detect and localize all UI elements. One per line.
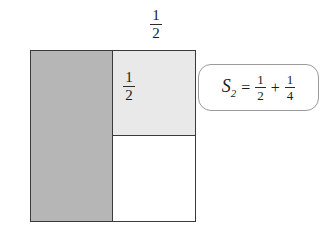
partial-sum-figure: 1 2 1 2 S2 = 1 2 + 1 4 — [0, 0, 336, 238]
fraction-term-one-half: 1 2 — [255, 73, 266, 102]
fraction-denominator: 4 — [285, 88, 296, 102]
fraction-denominator: 2 — [150, 25, 162, 41]
equation-callout: S2 = 1 2 + 1 4 — [198, 64, 319, 111]
fraction-term-one-quarter: 1 4 — [285, 73, 296, 102]
plus-sign: + — [271, 79, 280, 97]
fraction-denominator: 2 — [255, 88, 266, 102]
fraction-denominator: 2 — [123, 87, 135, 103]
fraction-numerator: 1 — [285, 73, 296, 88]
fraction-numerator: 1 — [150, 8, 162, 25]
fraction-numerator: 1 — [123, 70, 135, 87]
top-edge-fraction-label: 1 2 — [143, 8, 169, 41]
equals-sign: = — [241, 79, 250, 97]
fraction-one-half-inner: 1 2 — [123, 70, 135, 103]
series-symbol-letter: S — [222, 76, 231, 96]
series-symbol-subscript: 2 — [231, 87, 237, 99]
series-symbol: S2 — [222, 76, 237, 99]
unit-square — [30, 50, 196, 222]
fraction-numerator: 1 — [255, 73, 266, 88]
inner-fraction-label: 1 2 — [118, 70, 140, 103]
shaded-region-one-half — [31, 51, 113, 221]
unshaded-region-remainder — [113, 136, 195, 221]
fraction-one-half-top: 1 2 — [150, 8, 162, 41]
